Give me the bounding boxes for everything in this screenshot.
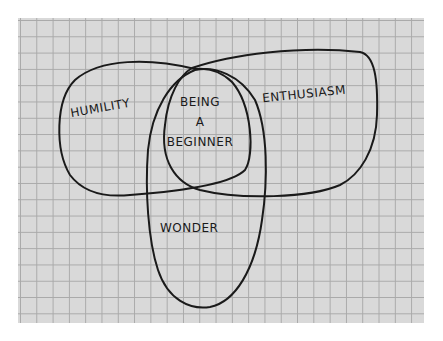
- intersection-label: BEING A BEGINNER: [160, 92, 240, 152]
- intersection-line-1: BEING: [160, 92, 240, 112]
- intersection-line-2: A: [160, 112, 240, 132]
- venn-diagram: [0, 0, 443, 341]
- intersection-line-3: BEGINNER: [160, 132, 240, 152]
- set-label-wonder: WONDER: [160, 218, 218, 238]
